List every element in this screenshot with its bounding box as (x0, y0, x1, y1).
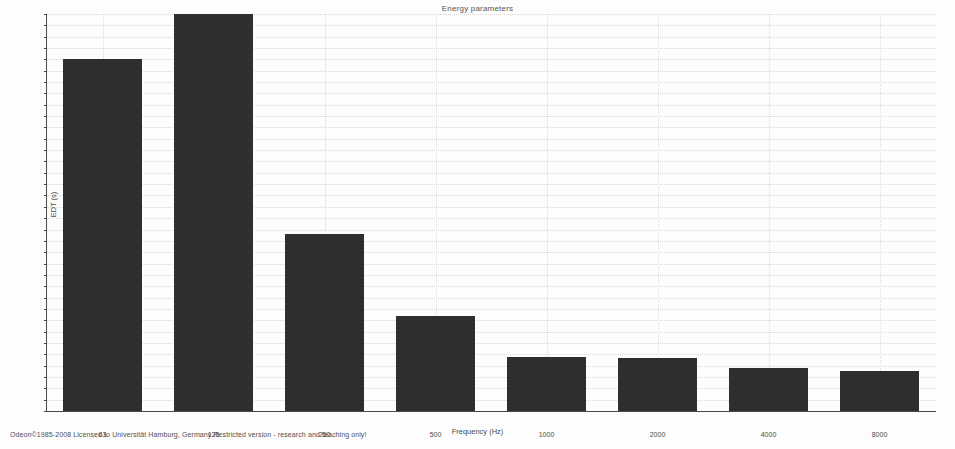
y-tick-mark (44, 37, 47, 38)
y-tick-mark (44, 286, 47, 287)
y-tick-mark (44, 14, 47, 15)
y-tick-mark (44, 275, 47, 276)
bar (285, 234, 365, 411)
y-tick-mark (44, 48, 47, 49)
bar (174, 14, 254, 411)
bar (507, 357, 587, 411)
bar (729, 368, 809, 411)
plot-area: 00.050.10.150.20.250.30.350.40.450.50.55… (47, 14, 935, 411)
vertical-gridline (658, 14, 659, 411)
y-tick-mark (44, 150, 47, 151)
y-tick-mark (44, 309, 47, 310)
y-tick-mark (44, 127, 47, 128)
y-tick-mark (44, 25, 47, 26)
y-tick-mark (44, 377, 47, 378)
y-tick-mark (44, 93, 47, 94)
y-tick-mark (44, 298, 47, 299)
y-tick-mark (44, 116, 47, 117)
y-tick-mark (44, 354, 47, 355)
odeon-chart-window: Energy parameters 00.050.10.150.20.250.3… (0, 0, 955, 449)
y-tick-mark (44, 105, 47, 106)
y-tick-mark (44, 207, 47, 208)
y-tick-mark (44, 320, 47, 321)
y-tick-mark (44, 59, 47, 60)
y-tick-mark (44, 388, 47, 389)
y-tick-mark (44, 82, 47, 83)
y-tick-mark (44, 264, 47, 265)
y-tick-mark (44, 241, 47, 242)
bar (840, 371, 920, 411)
y-tick-mark (44, 400, 47, 401)
y-axis-title: EDT (s) (49, 192, 58, 218)
y-tick-mark (44, 230, 47, 231)
y-tick-mark (44, 332, 47, 333)
page-title: Energy parameters (0, 4, 955, 13)
vertical-gridline (880, 14, 881, 411)
y-tick-mark (44, 139, 47, 140)
y-tick-mark (44, 184, 47, 185)
y-tick-mark (44, 218, 47, 219)
bar (63, 59, 143, 411)
x-axis-line (46, 411, 936, 412)
bar (618, 358, 698, 411)
y-tick-mark (44, 366, 47, 367)
bar (396, 316, 476, 411)
y-tick-mark (44, 343, 47, 344)
license-footer: Odeon©1985-2008 Licensed to Universität … (10, 431, 367, 438)
y-tick-mark (44, 195, 47, 196)
y-tick-mark (44, 71, 47, 72)
y-tick-mark (44, 252, 47, 253)
vertical-gridline (769, 14, 770, 411)
y-tick-mark (44, 161, 47, 162)
vertical-gridline (547, 14, 548, 411)
y-tick-mark (44, 411, 47, 412)
y-tick-mark (44, 173, 47, 174)
